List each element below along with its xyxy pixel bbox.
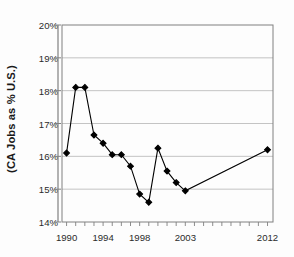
x-axis-tick-labels: 19901994199820032012 <box>0 0 294 257</box>
chart-container: (CA Jobs as % U.S.) 14%15%16%17%18%19%20… <box>0 0 294 257</box>
x-tick-label: 1998 <box>129 232 150 243</box>
x-tick-label: 1990 <box>56 232 77 243</box>
x-tick-label: 2003 <box>175 232 196 243</box>
x-tick-label: 1994 <box>92 232 113 243</box>
x-tick-label: 2012 <box>257 232 278 243</box>
